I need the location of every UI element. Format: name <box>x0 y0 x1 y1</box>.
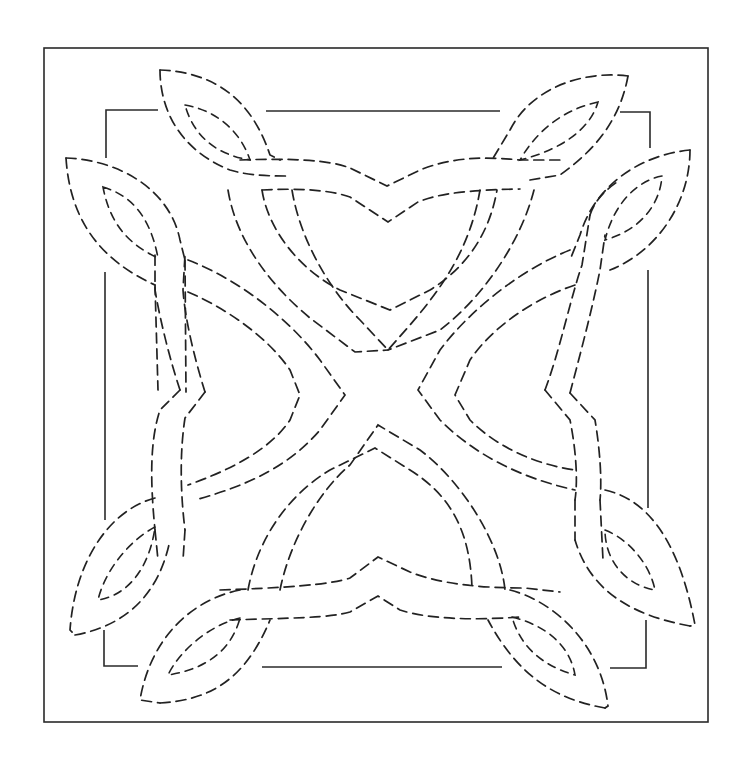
leaf-top-right-lower <box>570 150 690 270</box>
outer-frame <box>44 48 708 722</box>
quilt-pattern-diagram <box>0 0 749 767</box>
heart-right <box>418 215 605 500</box>
leaf-top-left-upper <box>160 70 290 176</box>
leaf-top-left-lower <box>66 158 185 285</box>
leaf-top-right-upper <box>492 75 628 180</box>
leaf-bottom-right-upper <box>575 490 695 626</box>
heart-bottom <box>220 425 560 620</box>
leaf-bottom-right-lower <box>488 590 608 708</box>
heart-left <box>152 250 345 530</box>
heart-top <box>228 158 560 352</box>
ribbon-bands <box>155 180 620 560</box>
leaf-bottom-left-lower <box>140 590 270 703</box>
leaf-bottom-left-upper <box>70 498 170 635</box>
